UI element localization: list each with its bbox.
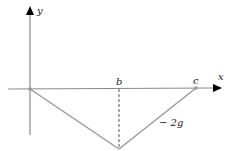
- c-point: [194, 86, 198, 90]
- c-label: c: [193, 75, 199, 86]
- graph-diagram: y x b c − 2g: [0, 0, 228, 151]
- y-axis-arrow-icon: [26, 6, 34, 15]
- x-axis: [8, 88, 214, 89]
- b-label: b: [116, 76, 122, 87]
- y-axis-label: y: [36, 5, 43, 16]
- slope-label: − 2g: [159, 117, 183, 128]
- descending-segment: [30, 89, 119, 149]
- origin-point: [28, 87, 32, 91]
- ascending-segment: [119, 88, 196, 149]
- x-axis-arrow-icon: [213, 84, 222, 92]
- x-axis-label: x: [218, 71, 224, 82]
